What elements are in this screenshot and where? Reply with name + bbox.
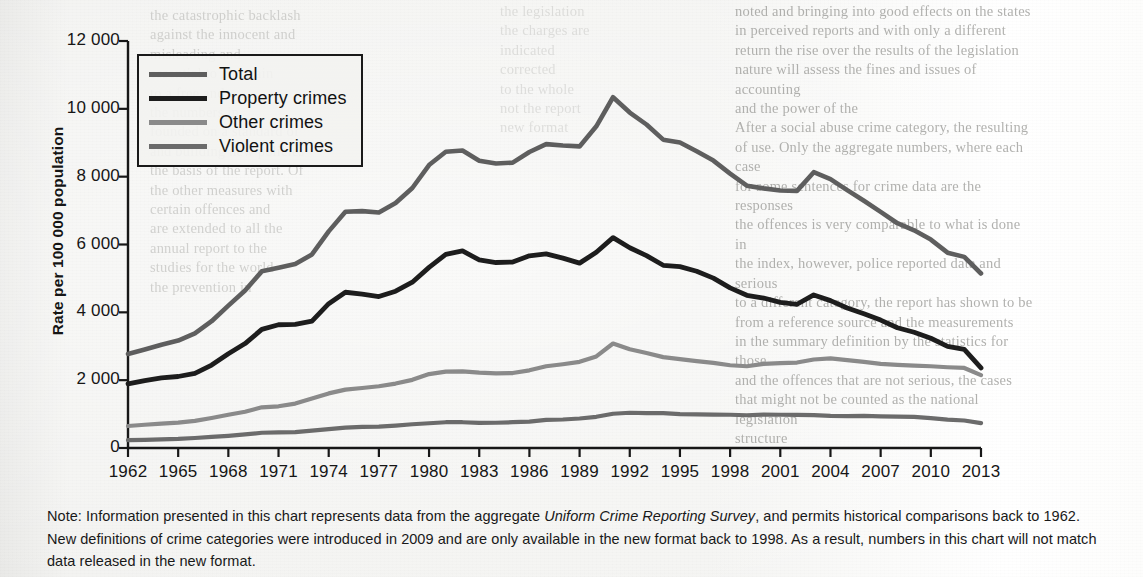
legend-item: Violent crimes bbox=[149, 134, 347, 158]
y-tick-label: 2 000 bbox=[30, 369, 120, 389]
x-tick-label: 1971 bbox=[259, 462, 298, 482]
x-tick-label: 1995 bbox=[661, 462, 700, 482]
x-tick-label: 1968 bbox=[209, 462, 248, 482]
x-tick-label: 1983 bbox=[460, 462, 499, 482]
legend-item-label: Property crimes bbox=[219, 88, 347, 108]
legend-item-label: Total bbox=[219, 64, 258, 84]
legend-item: Other crimes bbox=[149, 110, 347, 134]
note-lead-text: Note: Information presented in this char… bbox=[47, 508, 544, 524]
x-tick-label: 1977 bbox=[360, 462, 399, 482]
line-chart: Rate per 100 000 population 02 0004 0006… bbox=[0, 0, 1143, 495]
x-tick-label: 2010 bbox=[912, 462, 951, 482]
x-tick-label: 1962 bbox=[109, 462, 148, 482]
legend-swatch-icon bbox=[149, 120, 207, 125]
series-line bbox=[128, 413, 981, 440]
x-tick-label: 2001 bbox=[761, 462, 800, 482]
x-tick-label: 2013 bbox=[962, 462, 1001, 482]
x-tick-label: 2007 bbox=[861, 462, 900, 482]
x-tick-label: 1998 bbox=[711, 462, 750, 482]
legend-item: Property crimes bbox=[149, 86, 347, 110]
x-tick-label: 2004 bbox=[811, 462, 850, 482]
y-tick-label: 8 000 bbox=[30, 166, 120, 186]
x-tick-label: 1992 bbox=[610, 462, 649, 482]
legend-item: Total bbox=[149, 62, 347, 86]
series-line bbox=[128, 344, 981, 426]
legend-swatch-icon bbox=[149, 72, 207, 77]
y-tick-label: 4 000 bbox=[30, 301, 120, 321]
x-tick-label: 1974 bbox=[309, 462, 348, 482]
x-tick-label: 1989 bbox=[560, 462, 599, 482]
y-tick-label: 12 000 bbox=[30, 30, 120, 50]
chart-legend: TotalProperty crimesOther crimesViolent … bbox=[137, 54, 363, 167]
y-tick-label: 10 000 bbox=[30, 98, 120, 118]
y-tick-label: 0 bbox=[30, 437, 120, 457]
y-axis-tick-labels: 02 0004 0006 0008 00010 00012 000 bbox=[14, 0, 120, 495]
x-axis-tick-labels: 1962196519681971197419771980198319861989… bbox=[0, 462, 1143, 490]
chart-note: Note: Information presented in this char… bbox=[47, 505, 1097, 573]
legend-swatch-icon bbox=[149, 96, 207, 101]
legend-swatch-icon bbox=[149, 144, 207, 149]
legend-item-label: Violent crimes bbox=[219, 136, 333, 156]
note-survey-name: Uniform Crime Reporting Survey bbox=[544, 508, 755, 524]
x-tick-label: 1965 bbox=[159, 462, 198, 482]
y-tick-label: 6 000 bbox=[30, 234, 120, 254]
scanned-chart-page: the catastrophic backlash against the in… bbox=[0, 0, 1143, 577]
legend-item-label: Other crimes bbox=[219, 112, 323, 132]
x-tick-label: 1986 bbox=[510, 462, 549, 482]
x-tick-label: 1980 bbox=[410, 462, 449, 482]
